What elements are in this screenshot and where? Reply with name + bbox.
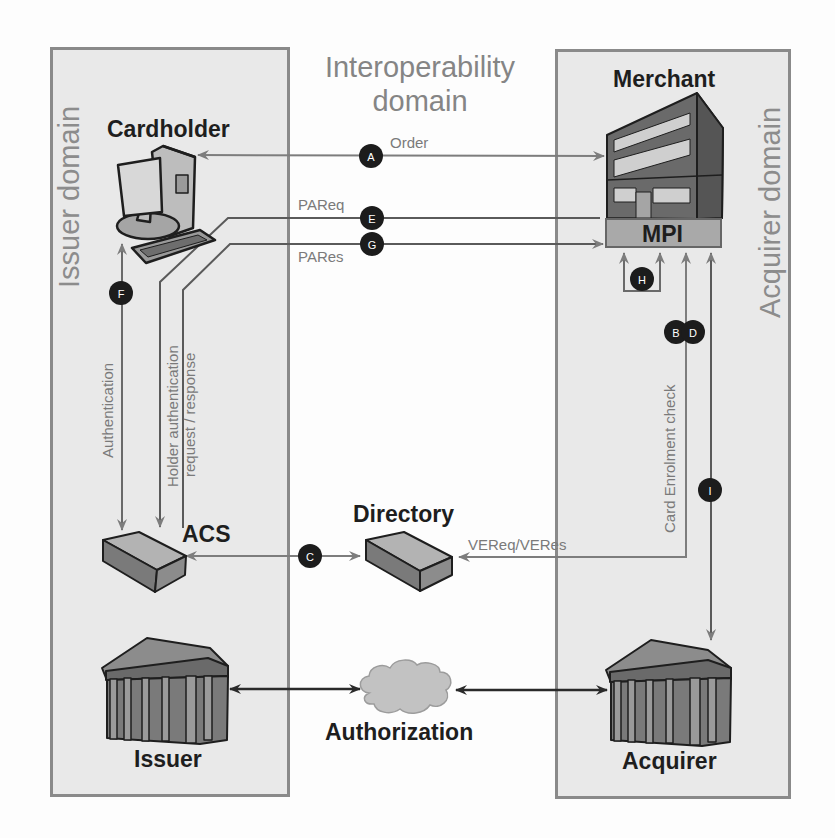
flow-card-enrolment — [459, 253, 686, 557]
acs-label: ACS — [182, 521, 231, 548]
svg-text:G: G — [368, 239, 377, 251]
building-icon — [607, 93, 723, 219]
svg-text:E: E — [368, 213, 375, 225]
badge-h: H — [630, 267, 654, 291]
acquirer-bank-icon — [606, 640, 731, 746]
computer-icon — [117, 146, 215, 263]
flow-order — [198, 155, 604, 156]
issuer-bank-icon — [102, 638, 228, 744]
directory-server-icon — [366, 532, 452, 591]
acquirer-label: Acquirer — [622, 748, 717, 775]
svg-text:H: H — [638, 274, 646, 286]
authorization-label: Authorization — [325, 719, 473, 746]
holder-auth-line-1: Holder authentication — [164, 345, 181, 487]
issuer-label: Issuer — [134, 746, 202, 773]
svg-text:B: B — [672, 327, 679, 339]
merchant-label: Merchant — [613, 66, 715, 93]
svg-text:A: A — [367, 151, 375, 163]
vereq-veres-label: VEReq/VERes — [468, 536, 566, 553]
pares-label: PARes — [298, 248, 344, 265]
card-enrolment-label: Card Enrolment check — [661, 385, 678, 533]
flow-pareq — [160, 218, 600, 527]
cloud-icon — [360, 660, 450, 713]
holder-auth-label: Holder authentication request / response — [164, 345, 198, 487]
svg-text:F: F — [118, 288, 125, 300]
badge-d: D — [681, 320, 705, 344]
holder-auth-line-2: request / response — [181, 345, 198, 487]
diagram-3d-secure: Issuer domain Acquirer domain Interopera… — [0, 0, 835, 838]
order-label: Order — [390, 134, 428, 151]
pareq-label: PAReq — [298, 196, 344, 213]
authentication-label: Authentication — [99, 363, 116, 458]
svg-text:D: D — [689, 327, 697, 339]
directory-label: Directory — [353, 501, 454, 528]
badge-i: I — [698, 478, 722, 502]
badge-e: E — [360, 206, 384, 230]
svg-text:I: I — [708, 485, 711, 497]
badge-c: C — [298, 544, 322, 568]
svg-text:C: C — [306, 551, 314, 563]
acs-server-icon — [103, 532, 186, 592]
flow-pares — [183, 244, 603, 528]
badge-a: A — [359, 144, 383, 168]
badge-g: G — [360, 232, 384, 256]
cardholder-label: Cardholder — [107, 116, 230, 143]
badge-f: F — [109, 281, 133, 305]
mpi-label: MPI — [642, 221, 683, 248]
